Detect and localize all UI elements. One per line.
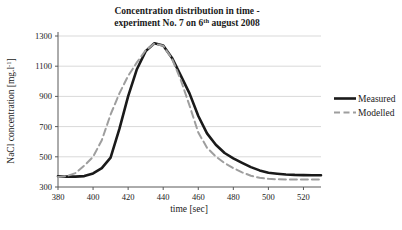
x-tick-label: 500 [262,192,275,202]
x-tick-label: 480 [227,192,240,202]
modelled-series-line [58,44,321,180]
tick-marks [55,36,303,190]
legend: Measured Modelled [334,94,396,118]
axes [58,32,321,187]
x-tick-label: 440 [157,192,170,202]
y-tick-label: 1100 [35,61,52,71]
y-tick-label: 900 [39,91,52,101]
y-tick-label: 1300 [35,31,52,41]
y-tick-label: 500 [39,152,52,162]
y-tick-label: 300 [39,182,52,192]
data-series [58,43,321,179]
legend-measured-label: Measured [358,94,396,104]
x-tick-label: 420 [122,192,135,202]
chart-title-line1: Concentration distribution in time - [114,6,259,16]
concentration-line-chart: 3005007009001100130038040042044046048050… [0,0,402,230]
chart-figure: 3005007009001100130038040042044046048050… [0,0,402,230]
x-axis-title: time [sec] [170,204,208,214]
y-tick-label: 700 [39,122,52,132]
y-axis-title: NaCl concentration [mg.l-1] [5,58,17,163]
x-tick-label: 400 [87,192,100,202]
x-tick-label: 460 [192,192,205,202]
legend-modelled-label: Modelled [358,108,395,118]
x-tick-label: 520 [297,192,310,202]
chart-title-line2: experiment No. 7 on 6th august 2008 [114,17,260,29]
x-tick-label: 380 [52,192,65,202]
